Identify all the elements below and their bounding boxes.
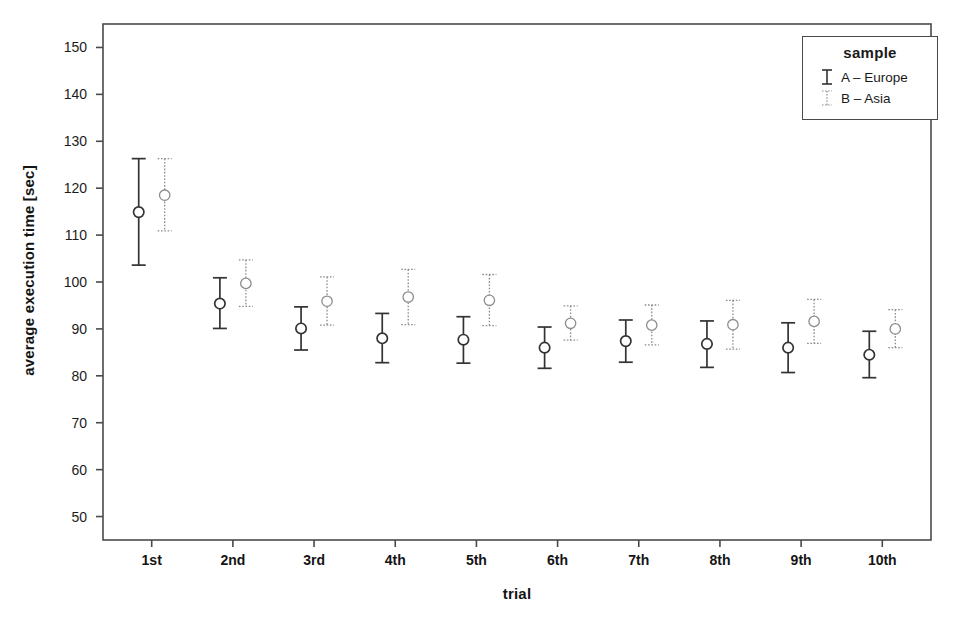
data-point (213, 278, 227, 329)
series-a (132, 159, 877, 378)
legend-entry-b-asia[interactable]: B – Asia (819, 89, 927, 107)
data-point (320, 277, 334, 325)
legend-entry-a-europe[interactable]: A – Europe (819, 68, 927, 86)
figure-canvas: average execution time [sec] trial 50607… (0, 0, 966, 621)
data-point (862, 331, 876, 377)
data-point (781, 323, 795, 373)
data-point (294, 307, 308, 350)
y-axis-ticks (96, 47, 103, 516)
data-point (482, 274, 496, 325)
series-b (158, 159, 903, 349)
data-point (700, 321, 714, 367)
legend-entries: A – EuropeB – Asia (813, 68, 927, 107)
data-point (456, 317, 470, 363)
data-point (538, 327, 552, 368)
data-point (239, 260, 253, 306)
data-series-group (132, 159, 903, 378)
data-point (132, 159, 146, 265)
data-point (375, 313, 389, 362)
data-point (401, 269, 415, 324)
x-axis-ticks (152, 540, 883, 547)
data-point (619, 320, 633, 362)
legend-box: sample A – EuropeB – Asia (802, 36, 938, 120)
data-point (564, 306, 578, 340)
data-point (807, 299, 821, 343)
data-point (726, 300, 740, 349)
legend-title: sample (813, 44, 927, 61)
legend-entry-label: A – Europe (841, 70, 908, 85)
legend-entry-label: B – Asia (841, 91, 891, 106)
error-bar-icon (819, 68, 835, 86)
data-point (888, 310, 902, 348)
data-point (158, 159, 172, 231)
error-bar-icon (819, 89, 835, 107)
data-point (645, 305, 659, 345)
